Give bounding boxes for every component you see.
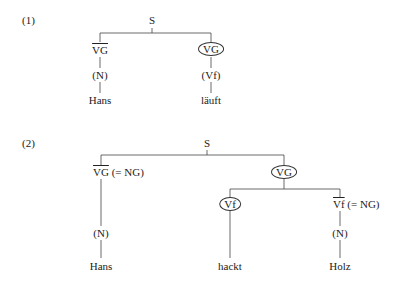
node-vg-bar: VG [92, 44, 108, 56]
node-n: (N) [93, 227, 108, 239]
root-node: S [149, 14, 155, 26]
node-vg-circled: VG [198, 42, 224, 56]
node-vf-bar-ng: Vf (= NG) [333, 198, 380, 210]
node-n: (N) [92, 69, 107, 81]
example-number: (2) [22, 137, 35, 149]
example-number: (1) [22, 14, 35, 26]
leaf-laeuft: läuft [201, 94, 221, 106]
leaf-hans: Hans [89, 94, 112, 106]
root-node: S [204, 137, 210, 149]
node-vf: (Vf) [202, 69, 221, 81]
leaf-hans: Hans [90, 260, 113, 272]
node-vg-circled: VG [271, 165, 297, 179]
leaf-hackt: hackt [218, 260, 242, 272]
node-vg-bar-ng: VG (= NG) [93, 166, 144, 178]
node-vf-circled: Vf [219, 197, 241, 211]
leaf-holz: Holz [329, 260, 350, 272]
node-n: (N) [332, 227, 347, 239]
tree-edges [0, 0, 400, 287]
